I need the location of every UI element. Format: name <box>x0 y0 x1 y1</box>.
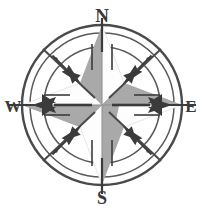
compass-rose-figure: N E S W <box>0 0 204 210</box>
spear-southeast <box>118 121 155 158</box>
compass-rose-graphic: N E S W <box>0 0 204 210</box>
cardinal-label-west: W <box>5 97 22 116</box>
cardinal-label-north: N <box>95 5 109 26</box>
cardinal-label-east: E <box>185 97 196 116</box>
spear-southwest <box>48 121 85 158</box>
spear-northeast <box>118 51 155 88</box>
spear-northwest <box>48 51 85 88</box>
cardinal-label-south: S <box>97 188 107 208</box>
